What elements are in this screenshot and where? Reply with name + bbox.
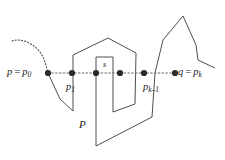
label-pk1-subscript: k–1 — [148, 85, 159, 94]
label-pk-minus-1: pk–1 — [143, 82, 159, 94]
label-q-equals: = — [183, 66, 193, 77]
vertex-dot-p1[interactable] — [69, 70, 75, 76]
vertex-dot-p0[interactable] — [45, 70, 51, 76]
label-P-polygon: P — [79, 119, 86, 130]
vertex-dot-a[interactable] — [93, 70, 99, 76]
diagram-svg — [0, 0, 225, 160]
label-q-equals-pk: q=pk — [178, 67, 202, 79]
vertex-dot-pk-minus-1[interactable] — [141, 70, 147, 76]
polygon-boundary-bottom-right — [96, 16, 215, 146]
label-p-equals-p0: p=p0 — [7, 67, 31, 79]
label-p1-subscript: 1 — [71, 85, 75, 94]
vertex-dot-s[interactable] — [117, 70, 123, 76]
polygon-boundary-outer-left-wall — [73, 38, 136, 111]
figure-canvas: p=p0 p1 s pk–1 q=pk P — [0, 0, 225, 160]
label-p0-subscript: 0 — [28, 70, 32, 79]
label-p1: p1 — [66, 82, 75, 94]
label-P-sym: P — [79, 118, 86, 130]
label-q-subscript: k — [199, 70, 202, 79]
label-s-sym: s — [103, 59, 106, 69]
polygon-boundary-inner-notch — [96, 57, 135, 146]
label-s: s — [103, 60, 106, 69]
label-p0-equals: = — [12, 66, 22, 77]
